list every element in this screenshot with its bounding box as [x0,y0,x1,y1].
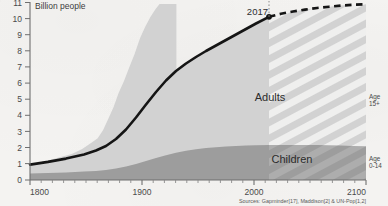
y-tick-label: 2 [17,143,22,153]
y-tick-label: 5 [17,94,22,104]
y-axis-tick-labels: 11 10 9 8 7 6 5 4 3 2 1 0 [13,0,23,185]
x-tick-label: 2000 [245,187,264,197]
y-tick-label: 11 [13,0,22,8]
y-axis-title: Billion people [35,1,86,11]
adults-age-label-line2: 15+ [369,100,380,107]
y-tick-label: 4 [17,110,22,120]
x-axis-tick-labels: 1800 1900 2000 2100 [30,187,366,197]
x-tick-label: 1800 [30,187,49,197]
adults-band-label: Adults [255,91,286,103]
x-tick-label: 2100 [347,187,366,197]
y-tick-label: 8 [17,46,22,56]
children-age-label-line2: 0-14 [369,162,382,169]
x-tick-label: 1900 [133,187,152,197]
y-tick-label: 9 [17,30,22,40]
y-axis-ticks [25,3,30,181]
population-area-chart: 11 10 9 8 7 6 5 4 3 2 1 0 Billion people [0,0,388,206]
projection-year-label: 2017 [247,6,268,17]
children-band-label: Children [272,153,313,165]
chart-figure: 11 10 9 8 7 6 5 4 3 2 1 0 Billion people [0,0,388,206]
y-tick-label: 3 [17,127,22,137]
y-tick-label: 6 [17,78,22,88]
y-tick-label: 0 [17,175,22,185]
y-tick-label: 7 [17,62,22,72]
sources-note: Sources: Gapminder[17], Maddison[2] & UN… [239,198,367,204]
y-tick-label: 1 [17,159,22,169]
y-tick-label: 10 [13,14,23,24]
